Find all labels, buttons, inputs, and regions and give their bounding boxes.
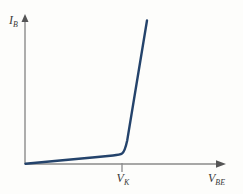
x-axis-label-subscript: BE: [215, 178, 225, 187]
y-axis-label: IB: [9, 14, 18, 26]
plot-canvas: [0, 0, 243, 194]
knee-voltage-label-subscript: K: [124, 178, 129, 187]
y-axis-arrow-icon: [22, 14, 29, 22]
knee-voltage-tick-label: VK: [112, 172, 134, 184]
knee-voltage-label-main: V: [117, 171, 124, 185]
y-axis-label-subscript: B: [13, 20, 18, 29]
x-axis-label: VBE: [208, 172, 225, 184]
x-axis-arrow-icon: [216, 160, 226, 167]
characteristic-curve: [26, 21, 148, 164]
diode-characteristic-figure: IB VK VBE: [0, 0, 243, 194]
